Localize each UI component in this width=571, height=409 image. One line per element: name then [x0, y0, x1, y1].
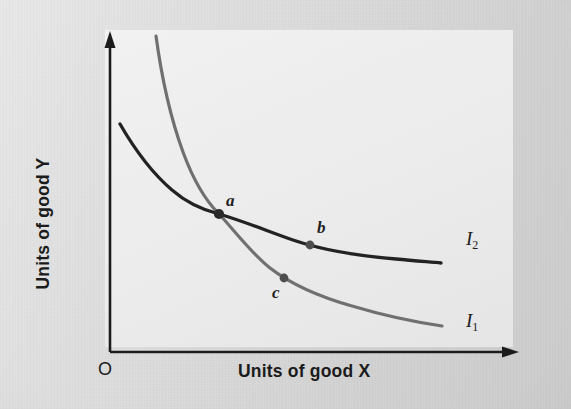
chart-canvas: [0, 0, 571, 409]
point-label-a: a: [226, 191, 235, 211]
point-label-b: b: [317, 218, 326, 238]
origin-label: O: [98, 359, 112, 380]
indifference-curve-i2: [120, 124, 441, 263]
x-axis-label: Units of good X: [238, 361, 370, 382]
point-label-c: c: [272, 283, 280, 303]
curve-label-i2-subscript: 2: [472, 238, 478, 252]
data-point-a: [214, 209, 224, 219]
curve-label-i2: I2: [466, 228, 478, 250]
y-axis-label: Units of good Y: [33, 144, 54, 304]
indifference-curve-figure: Units of good Y Units of good X O a b c …: [0, 0, 571, 409]
data-point-b: [306, 241, 315, 250]
data-point-c: [280, 274, 289, 283]
curve-label-i1-subscript: 1: [472, 320, 478, 334]
y-axis-arrowhead: [105, 31, 116, 48]
x-axis-arrowhead: [502, 347, 519, 358]
curve-label-i1: I1: [466, 310, 478, 332]
indifference-curve-i1: [156, 36, 442, 326]
